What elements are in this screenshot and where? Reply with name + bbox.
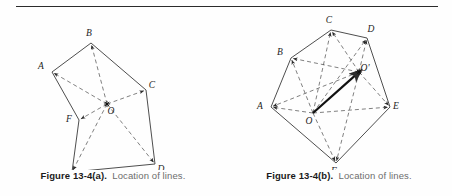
ray-Op-to-B (293, 58, 359, 72)
vertex-label-O: O (306, 116, 313, 126)
top-divider-rule (16, 6, 438, 7)
vertex-label-C: C (326, 15, 333, 25)
figure-b-caption-label: Figure 13-4(b). (266, 170, 333, 181)
figure-13-4b-drawing: ABCDEFOO' (226, 10, 452, 170)
figure-panel-b: ABCDEFOO' Figure 13-4(b). Location of li… (226, 10, 452, 196)
ray-Op-to-F (337, 72, 359, 161)
edge-AB (52, 43, 91, 72)
edge-EF (336, 107, 390, 163)
figure-b-caption: Figure 13-4(b). Location of lines. (226, 170, 452, 182)
figure-a-caption-text: Location of lines. (112, 170, 185, 181)
edge-BC (91, 43, 146, 90)
edge-CD (331, 30, 367, 38)
edge-FA (271, 107, 336, 163)
edge-FA (52, 72, 79, 120)
vertex-label-A: A (37, 61, 44, 71)
center-dot-O (106, 103, 108, 105)
ray-Op-to-A (273, 72, 359, 106)
figure-page: ABCDEFO Figure 13-4(a). Location of line… (0, 0, 452, 196)
panel-b-displacement-vector (313, 73, 358, 113)
ray-O-to-A (54, 73, 107, 104)
figure-a-caption-label: Figure 13-4(a). (41, 170, 107, 181)
edge-EF (72, 120, 79, 170)
panel-a-solid-edges (52, 43, 155, 170)
vertex-label-O-prime: O' (361, 63, 371, 73)
ray-O-to-A (273, 107, 313, 113)
ray-O-to-E (313, 107, 388, 113)
ray-Op-to-C (332, 32, 359, 72)
panel-a-dashed-rays (54, 45, 154, 170)
vertex-label-D: D (367, 24, 375, 34)
vertex-label-B: B (86, 28, 92, 38)
ray-O-to-F (313, 113, 335, 161)
ray-O-to-E (73, 104, 107, 170)
vertex-label-O: O (108, 106, 115, 116)
figure-a-caption: Figure 13-4(a). Location of lines. (0, 170, 226, 182)
edge-BC (291, 30, 331, 58)
figure-b-caption-text: Location of lines. (339, 170, 412, 181)
edge-CD (146, 90, 155, 164)
panel-b-labels: ABCDEFOO' (256, 15, 399, 170)
ray-O-to-B (292, 60, 313, 113)
edge-AB (271, 58, 291, 107)
vertex-label-A: A (256, 101, 263, 111)
vertex-label-E: E (392, 101, 399, 111)
ray-O-to-B (92, 45, 107, 104)
figure-panel-a: ABCDEFO Figure 13-4(a). Location of line… (0, 10, 226, 196)
panel-a-labels: ABCDEFO (37, 28, 164, 170)
ray-O-to-C (107, 91, 144, 104)
vector-O-to-O-prime (313, 73, 358, 113)
vertex-label-F: F (65, 114, 72, 124)
vertex-label-B: B (277, 47, 283, 57)
figure-13-4a-drawing: ABCDEFO (0, 10, 226, 170)
vertex-label-C: C (149, 80, 156, 90)
edge-DE (367, 38, 390, 107)
